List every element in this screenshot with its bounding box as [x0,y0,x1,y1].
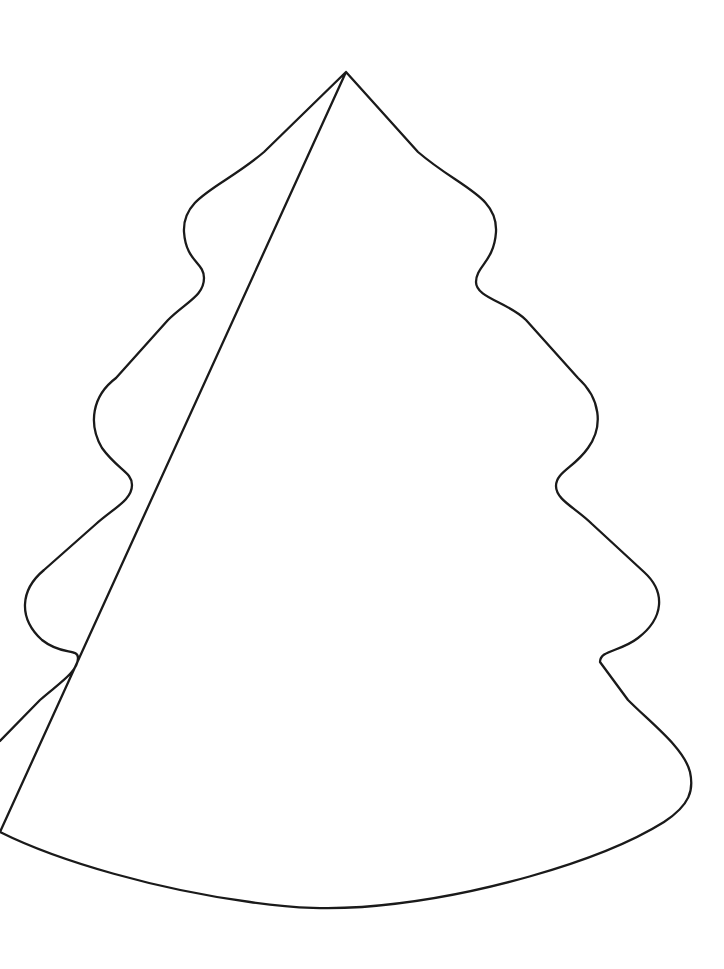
coloring-page-canvas: Outline drawing of a christmas tree [0,0,724,969]
christmas-tree-artwork [0,0,724,969]
